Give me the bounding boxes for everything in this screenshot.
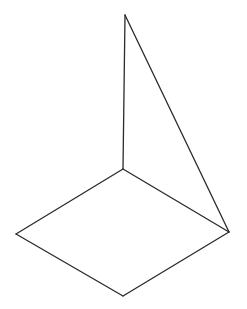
base-back-left	[16, 169, 123, 234]
diagram-edges	[16, 15, 229, 296]
base-left-front	[16, 234, 123, 296]
diagram-canvas	[0, 0, 247, 309]
base-right-back	[123, 169, 229, 232]
vertical-pole	[123, 15, 125, 169]
diagonal-edge	[125, 15, 229, 232]
base-front-right	[123, 232, 229, 296]
